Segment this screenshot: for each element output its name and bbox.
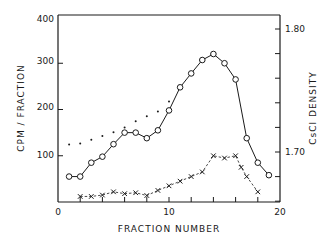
y-tick-label-400: 400	[37, 14, 54, 24]
chart: 0 10 20 400 300 200 100 1.80 1.70 FRACTI…	[0, 0, 330, 239]
y2-tick-label-180: 1.80	[285, 24, 305, 34]
x-tick-label-20: 20	[274, 207, 286, 217]
circles-series	[66, 51, 271, 179]
crosses-series	[78, 153, 260, 198]
y-tick-label-300: 300	[37, 56, 54, 66]
y-axis-title: CPM / FRACTION	[16, 64, 26, 152]
y2-axis-ticks	[275, 29, 280, 201]
y-tick-label-100: 100	[37, 150, 54, 160]
x-axis-ticks	[80, 197, 258, 202]
x-axis-title: FRACTION NUMBER	[118, 224, 220, 234]
y2-tick-label-170: 1.70	[285, 147, 305, 157]
y2-axis-title: CsCl DENSITY	[308, 71, 318, 144]
y-tick-label-200: 200	[37, 102, 54, 112]
x-tick-label-10: 10	[163, 207, 175, 217]
y-axis-ticks	[58, 63, 63, 156]
density-series	[68, 53, 214, 146]
x-tick-label-0: 0	[55, 207, 61, 217]
